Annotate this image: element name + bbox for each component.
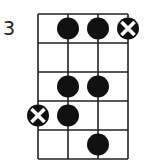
finger-dot <box>87 18 109 40</box>
finger-markers <box>27 18 139 156</box>
finger-dot <box>87 134 109 156</box>
finger-dot <box>57 18 79 40</box>
finger-dot <box>57 76 79 98</box>
chord-diagram: 3 <box>0 0 146 166</box>
finger-dot <box>57 105 79 127</box>
fretboard-grid <box>38 14 128 159</box>
start-fret-label: 3 <box>3 17 15 39</box>
finger-dot <box>87 76 109 98</box>
muted-x-icon <box>27 105 49 127</box>
muted-x-icon <box>117 18 139 40</box>
